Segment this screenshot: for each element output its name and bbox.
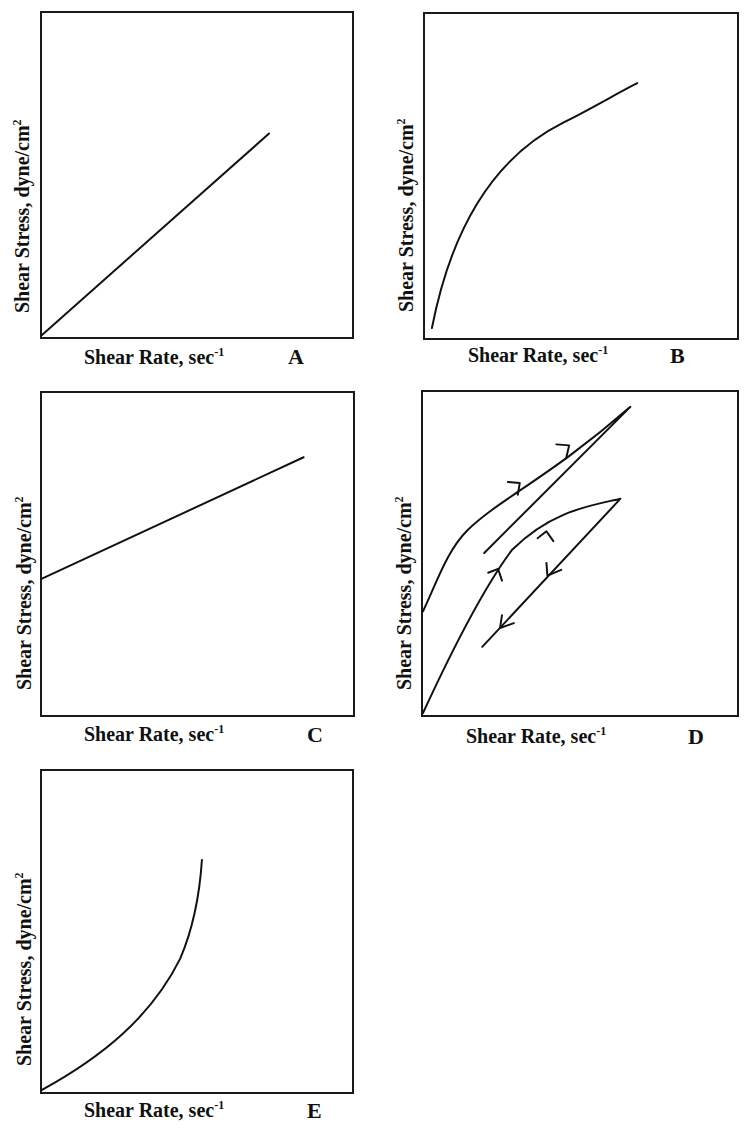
- y-axis-label-c: Shear Stress, dyne/cm2: [12, 496, 36, 690]
- plot-area-d: [421, 390, 739, 717]
- y-axis-label-e: Shear Stress, dyne/cm2: [12, 872, 36, 1066]
- x-axis-label-b: Shear Rate, sec-1: [468, 343, 608, 367]
- x-axis-label-e: Shear Rate, sec-1: [84, 1098, 224, 1122]
- panel-letter-c: C: [307, 722, 323, 748]
- curve-pseudoplastic: [425, 14, 737, 338]
- plot-area-a: [40, 11, 354, 339]
- curve-dilatant: [42, 771, 352, 1092]
- plot-area-c: [40, 391, 355, 717]
- curve-plastic: [42, 393, 353, 715]
- panel-letter-a: A: [288, 344, 304, 370]
- panel-letter-b: B: [670, 343, 685, 369]
- plot-area-e: [40, 769, 354, 1094]
- panel-letter-e: E: [307, 1098, 322, 1124]
- panel-letter-d: D: [688, 724, 704, 750]
- plot-area-b: [423, 12, 739, 340]
- y-axis-label-a: Shear Stress, dyne/cm2: [10, 119, 34, 313]
- x-axis-label-d: Shear Rate, sec-1: [466, 724, 606, 748]
- curve-newtonian: [42, 13, 352, 337]
- x-axis-label-c: Shear Rate, sec-1: [84, 722, 224, 746]
- curve-thixotropic: [423, 392, 737, 715]
- y-axis-label-b: Shear Stress, dyne/cm2: [394, 118, 418, 312]
- y-axis-label-d: Shear Stress, dyne/cm2: [392, 496, 416, 690]
- x-axis-label-a: Shear Rate, sec-1: [84, 345, 224, 369]
